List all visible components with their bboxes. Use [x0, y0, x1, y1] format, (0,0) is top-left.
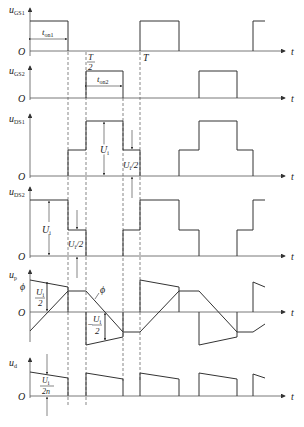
origin-label: O	[18, 307, 25, 318]
ud-label: ud	[9, 357, 17, 369]
time-label: t	[291, 251, 294, 262]
Ui-over-2n-num: Ui	[42, 376, 50, 386]
neg-Ui-den: 2	[95, 326, 100, 336]
time-label: t	[291, 171, 294, 182]
panel-ud: ud O t Ui 2n	[9, 354, 294, 416]
origin-label: O	[18, 93, 25, 104]
Ui-half-label-2: Ui/2	[68, 239, 84, 250]
Ui-over-2-label: Ui	[36, 287, 45, 298]
origin-label: O	[18, 46, 25, 57]
Ui-half-label: Ui/2	[123, 160, 139, 171]
period-label: T	[143, 52, 150, 63]
timing-diagram: uGS1 O t ton1 T 2 T uGS2 O t ton2 uDS1 O…	[0, 0, 304, 427]
Ui-over-2n-den: 2n	[42, 387, 50, 396]
origin-label: O	[18, 251, 25, 262]
uDS1-label: uDS1	[9, 113, 25, 125]
Ui-over-2-den: 2	[38, 298, 43, 308]
origin-label: O	[18, 171, 25, 182]
panel-uDS1: uDS1 O t Ui Ui/2	[9, 113, 294, 198]
panel-up: up O t ϕ Ui 2 − Ui 2 ϕ	[9, 269, 294, 345]
half-period-T: T	[88, 52, 94, 62]
uGS1-label: uGS1	[9, 4, 25, 16]
time-label: t	[291, 391, 294, 402]
panel-uDS2: uDS2 O t Ui Ui/2	[9, 186, 294, 278]
uGS2-label: uGS2	[9, 65, 25, 77]
neg-Ui-num: Ui	[93, 314, 102, 325]
panel-uGS1: uGS1 O t ton1 T 2 T	[9, 4, 294, 72]
ton2-label: ton2	[97, 74, 109, 85]
phi-curve-label: ϕ	[100, 284, 105, 295]
Ui-label: Ui	[100, 144, 109, 156]
origin-label: O	[18, 391, 25, 402]
uDS2-label: uDS2	[9, 186, 25, 198]
time-label: t	[291, 307, 294, 318]
time-label: t	[291, 93, 294, 104]
Ui-label-2: Ui	[42, 224, 51, 236]
ton1-label: ton1	[42, 27, 54, 38]
dashed-guides	[68, 52, 140, 405]
up-label: up	[9, 269, 17, 281]
phi-label: ϕ	[20, 281, 25, 292]
panel-uGS2: uGS2 O t ton2	[9, 65, 294, 104]
time-label: t	[291, 46, 294, 57]
